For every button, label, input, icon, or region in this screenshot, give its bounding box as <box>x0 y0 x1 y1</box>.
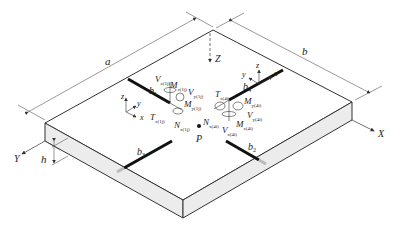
label-h: h <box>41 153 47 165</box>
axis-label-Z: Z <box>215 53 221 64</box>
point-P-marker <box>197 124 201 128</box>
axis-label-X: X <box>377 128 385 139</box>
label-b: b <box>302 45 308 57</box>
local4-x: x <box>273 69 278 78</box>
slab-diagram: a b h Y X Z b1 b4 b3 b2 <box>0 0 397 228</box>
plate <box>45 30 352 218</box>
local1-x: x <box>139 113 144 122</box>
axis-label-Y: Y <box>14 153 21 164</box>
local4-y: y <box>241 70 246 79</box>
label-P: P <box>195 133 202 144</box>
label-a: a <box>105 55 111 67</box>
local1-y: y <box>136 99 141 108</box>
